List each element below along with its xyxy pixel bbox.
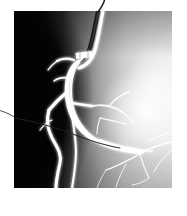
angiogram-figure: Black and white coronary angiogram showi… (0, 0, 187, 216)
angiogram-image-plate (14, 11, 172, 188)
plate-content (0, 0, 187, 216)
angiogram-canvas (0, 0, 187, 216)
film-grain-overlay (14, 11, 172, 188)
